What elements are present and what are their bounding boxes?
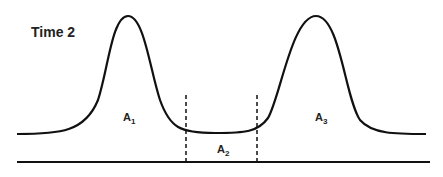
label-a3: A3 [315, 111, 327, 126]
label-a2: A2 [217, 143, 229, 158]
diagram-title: Time 2 [31, 24, 75, 40]
signal-curve [17, 16, 426, 134]
label-a1: A1 [123, 111, 135, 126]
